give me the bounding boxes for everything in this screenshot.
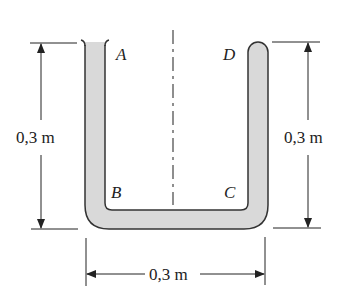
point-label-c: C [224, 183, 236, 202]
point-label-b: B [111, 183, 122, 202]
open-end-flare-left [81, 40, 85, 46]
left-height-label: 0,3 m [16, 128, 55, 147]
open-end-flare-right [105, 40, 109, 46]
point-label-d: D [222, 45, 236, 64]
point-label-a: A [115, 45, 127, 64]
bottom-width-label: 0,3 m [149, 265, 188, 284]
right-height-label: 0,3 m [284, 128, 323, 147]
u-tube-diagram: A B C D 0,3 m 0,3 m 0,3 m [0, 0, 344, 299]
